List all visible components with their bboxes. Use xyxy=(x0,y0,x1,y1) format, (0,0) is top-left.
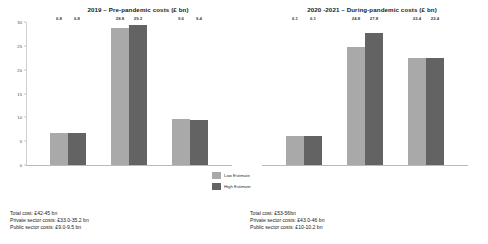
y-axis-tick-label: 15 xyxy=(6,91,22,96)
legend-label: High Estimate xyxy=(224,184,251,189)
bar-column: 24.8 xyxy=(347,22,365,165)
legend-item[interactable]: Low Estimate xyxy=(212,172,251,179)
bar-column: 6.8 xyxy=(68,22,86,165)
y-axis-tick-label: 30 xyxy=(6,20,22,25)
y-axis-tick-mark xyxy=(24,93,26,94)
y-axis-tick-mark xyxy=(24,165,26,166)
footnote-line: Public sector costs: £9.0-9.5 bn xyxy=(10,224,89,231)
footnote-line: Private sector costs: £33.0-35.2 bn xyxy=(10,217,89,224)
chart-title-2020-2021: 2020 -2021 – During-pandemic costs (£ bn… xyxy=(244,6,488,13)
bar-low-estimate[interactable]: 22.4 xyxy=(408,58,426,165)
bar-group: 22.422.4 xyxy=(408,22,444,165)
bar-value-label: 29.3 xyxy=(134,16,142,21)
y-axis-tick-label: 5 xyxy=(6,139,22,144)
footnote-line: Total cost: £42-45 bn xyxy=(10,210,89,217)
footnote-line: Private sector costs: £43.0-46 bn xyxy=(250,217,324,224)
bar-value-label: 22.4 xyxy=(413,16,421,21)
bar-column: 22.4 xyxy=(408,22,426,165)
bar-value-label: 28.8 xyxy=(116,16,124,21)
y-axis-tick-mark xyxy=(24,22,26,23)
footnote-line: Total cost: £53-56bn xyxy=(250,210,324,217)
bar-group: 28.829.3 xyxy=(111,22,147,165)
x-axis-line xyxy=(262,165,468,166)
bar-value-label: 9.4 xyxy=(196,16,202,21)
bar-high-estimate[interactable]: 22.4 xyxy=(426,58,444,165)
legend-swatch-icon xyxy=(212,183,221,190)
bar-value-label: 24.8 xyxy=(352,16,360,21)
bar-group: 9.69.4 xyxy=(172,22,208,165)
legend-swatch-icon xyxy=(212,172,221,179)
bar-value-label: 6.8 xyxy=(74,16,80,21)
bar-value-label: 6.8 xyxy=(56,16,62,21)
bar-high-estimate[interactable]: 9.4 xyxy=(190,120,208,165)
bar-column: 6.1 xyxy=(304,22,322,165)
y-axis-tick-mark xyxy=(24,69,26,70)
chart-legend: Low EstimateHigh Estimate xyxy=(212,172,251,190)
bar-column: 22.4 xyxy=(426,22,444,165)
y-axis-tick-label: 0 xyxy=(6,163,22,168)
bar-value-label: 22.4 xyxy=(431,16,439,21)
bar-column: 29.3 xyxy=(129,22,147,165)
y-axis-tick-label: 20 xyxy=(6,67,22,72)
x-axis-line xyxy=(26,165,232,166)
bar-column: 6.8 xyxy=(50,22,68,165)
footnote-2019: Total cost: £42-45 bnPrivate sector cost… xyxy=(10,210,89,232)
bar-low-estimate[interactable]: 9.6 xyxy=(172,119,190,165)
bar-low-estimate[interactable]: 6.1 xyxy=(286,136,304,165)
bar-group: 24.827.8 xyxy=(347,22,383,165)
y-axis-tick-mark xyxy=(24,117,26,118)
y-axis-tick-label: 10 xyxy=(6,115,22,120)
bar-value-label: 6.1 xyxy=(292,16,298,21)
bar-value-label: 27.8 xyxy=(370,16,378,21)
bar-low-estimate[interactable]: 28.8 xyxy=(111,28,129,165)
bar-low-estimate[interactable]: 6.8 xyxy=(50,133,68,165)
bar-column: 9.4 xyxy=(190,22,208,165)
bar-high-estimate[interactable]: 6.8 xyxy=(68,133,86,165)
bar-value-label: 6.1 xyxy=(310,16,316,21)
bar-column: 9.6 xyxy=(172,22,190,165)
y-axis-tick-mark xyxy=(24,45,26,46)
bar-column: 27.8 xyxy=(365,22,383,165)
chart-title-2019: 2019 – Pre-pandemic costs (£ bn) xyxy=(0,6,260,13)
bar-column: 28.8 xyxy=(111,22,129,165)
plot-area-2020-2021: 6.16.124.827.822.422.4 xyxy=(262,22,468,166)
plot-area-2019: 0510152025306.86.828.829.39.69.4 xyxy=(26,22,232,166)
y-axis-line xyxy=(26,22,27,166)
bar-group: 6.86.8 xyxy=(50,22,86,165)
chart-panel-2019: 2019 – Pre-pandemic costs (£ bn) 0510152… xyxy=(0,0,244,244)
legend-item[interactable]: High Estimate xyxy=(212,183,251,190)
y-axis-tick-label: 25 xyxy=(6,43,22,48)
legend-label: Low Estimate xyxy=(224,173,250,178)
bar-column: 6.1 xyxy=(286,22,304,165)
y-axis-tick-mark xyxy=(24,141,26,142)
bar-high-estimate[interactable]: 6.1 xyxy=(304,136,322,165)
chart-page: 2019 – Pre-pandemic costs (£ bn) 0510152… xyxy=(0,0,488,244)
footnote-line: Public sector costs: £10-10.2 bn xyxy=(250,224,324,231)
bar-high-estimate[interactable]: 29.3 xyxy=(129,25,147,165)
bar-group: 6.16.1 xyxy=(286,22,322,165)
footnote-2020-2021: Total cost: £53-56bnPrivate sector costs… xyxy=(250,210,324,232)
bar-high-estimate[interactable]: 27.8 xyxy=(365,33,383,166)
bar-low-estimate[interactable]: 24.8 xyxy=(347,47,365,165)
bar-value-label: 9.6 xyxy=(178,16,184,21)
